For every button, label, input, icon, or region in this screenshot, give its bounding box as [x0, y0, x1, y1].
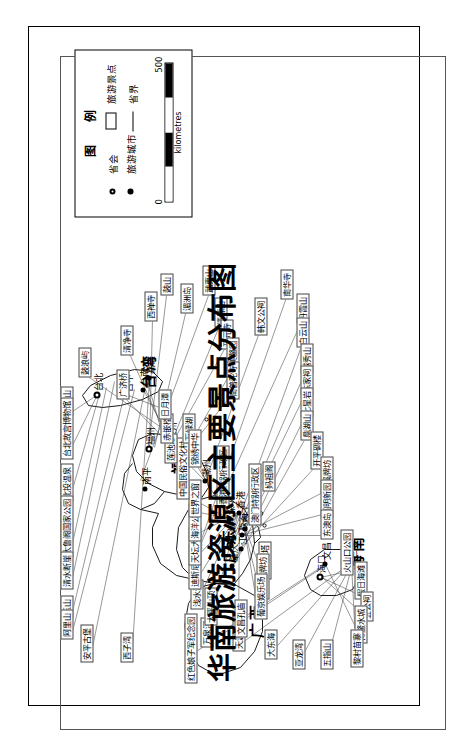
legend-item-city: 旅游城市	[124, 134, 138, 203]
legend-label-attraction: 旅游景点	[104, 64, 118, 104]
scale-min-label: 0	[154, 199, 164, 204]
legend-item-capital: 省会	[106, 154, 120, 203]
city-name-label: 南平	[140, 467, 153, 485]
attraction-label: 太鲁阁国家公园	[61, 496, 74, 558]
attraction-label: 西禅寺	[145, 292, 158, 322]
attraction-label: 鼓浪屿	[79, 348, 92, 378]
attraction-label: 广济桥	[117, 370, 130, 400]
scale-max-label: 500	[154, 57, 164, 73]
attraction-label: 阿里山	[61, 610, 74, 640]
page-title: 华南旅游资源区主要景点分布图	[199, 352, 241, 682]
legend-label-boundary: 省界	[126, 84, 140, 104]
attraction-label: 大东海	[265, 630, 278, 660]
attraction-label: 红色娘子军纪念园	[185, 614, 198, 684]
attraction-label: 台北故宫博物馆	[61, 398, 74, 460]
attraction-label: 湄洲岛	[181, 284, 194, 314]
attraction-label: 鼓山	[161, 274, 174, 296]
attraction-label: 东澳岛	[321, 510, 334, 540]
legend-item-attraction: 旅游景点	[104, 64, 118, 133]
legend-label-capital: 省会	[106, 154, 120, 174]
attraction-box-icon	[105, 111, 116, 133]
legend-item-boundary: 省界	[126, 84, 140, 133]
scale-bar: 0 500 kilometres	[154, 63, 183, 203]
scale-units-label: kilometres	[174, 63, 183, 203]
legend-title: 图 例	[81, 51, 98, 217]
attraction-label: 亚龙湾	[293, 640, 306, 670]
attraction-label: 清水断崖	[61, 552, 74, 590]
city-name-label: 福州	[144, 427, 157, 445]
attraction-label: 火山口公园	[341, 530, 354, 576]
city-name-label: 台北	[92, 373, 105, 391]
attraction-label: 西子湾	[121, 633, 134, 663]
attraction-label: 清净寺	[121, 326, 134, 356]
attraction-label: 南华寺	[281, 270, 294, 300]
attraction-label: 葡京娱乐场	[255, 574, 268, 620]
map-page: 福州南平泉州厦门潮州韶关广州深圳香港珠海澳门江门肇庆海口文昌三亚台北台中台南高雄…	[0, 0, 472, 731]
legend-label-city: 旅游城市	[124, 134, 138, 174]
city-dot-icon	[128, 181, 134, 203]
city-name-label: 文昌	[320, 542, 333, 560]
scale-bar-graphic	[165, 63, 174, 203]
attraction-label: 韩文公祠	[255, 298, 268, 336]
attraction-label: 澳门特别行政区	[249, 464, 262, 526]
attraction-label: 日月潭	[159, 390, 172, 420]
legend-box: 图 例 省会 旅游城市 旅游景点 省界 0 500	[75, 50, 193, 218]
attraction-label: 黎村苗寨	[351, 630, 364, 668]
attraction-label: 妈祖阁	[263, 462, 276, 492]
scale-tick-labels: 0 500	[154, 63, 165, 203]
capital-dot-icon	[110, 181, 116, 203]
attraction-label: 五指山	[321, 640, 334, 670]
boundary-line-icon	[132, 111, 133, 133]
attraction-label: 中国民俗文化村	[177, 438, 190, 500]
province-name-label: 台湾	[137, 353, 158, 389]
attraction-label: 安平古堡	[81, 625, 94, 663]
rotated-map-container: 福州南平泉州厦门潮州韶关广州深圳香港珠海澳门江门肇庆海口文昌三亚台北台中台南高雄…	[49, 36, 424, 696]
